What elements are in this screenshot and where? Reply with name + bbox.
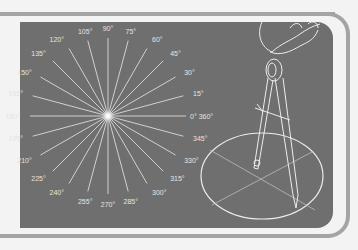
label-45: 45°: [170, 50, 181, 57]
compass-right-leg: [275, 78, 298, 208]
label-225: 225°: [31, 175, 46, 182]
ray-240: [69, 116, 108, 184]
wheel-center-glow: [102, 110, 114, 122]
ray-255: [88, 116, 108, 191]
ray-165: [33, 96, 108, 116]
label-255: 255°: [78, 198, 93, 205]
label-60: 60°: [152, 36, 163, 43]
ray-15: [108, 96, 183, 116]
ray-105: [88, 41, 108, 116]
hand-fingers: [290, 22, 318, 28]
ray-285: [108, 116, 128, 191]
label-150: 150°: [17, 69, 32, 76]
label-315: 315°: [170, 175, 185, 182]
label-180: 180°: [6, 113, 21, 120]
label-165: 165°: [9, 90, 24, 97]
ray-75: [108, 41, 128, 116]
label-330: 330°: [184, 157, 199, 164]
label-210: 210°: [17, 157, 32, 164]
label-240: 240°: [50, 189, 65, 196]
label-30: 30°: [184, 69, 195, 76]
ray-150: [41, 77, 109, 116]
ray-210: [41, 116, 109, 155]
label-0: 0° 360°: [190, 113, 213, 120]
ray-315: [108, 116, 163, 171]
compass-hinge-inner: [268, 63, 276, 77]
label-195: 195°: [9, 135, 24, 142]
ray-60: [108, 49, 147, 117]
label-90: 90°: [103, 25, 114, 32]
label-270: 270°: [101, 201, 116, 208]
compass-adjust-bar: [255, 108, 290, 120]
ray-330: [108, 116, 176, 155]
label-105: 105°: [78, 28, 93, 35]
ray-345: [108, 116, 183, 136]
label-120: 120°: [50, 36, 65, 43]
ray-135: [53, 61, 108, 116]
compass-illustration: [201, 22, 323, 219]
label-345: 345°: [193, 135, 208, 142]
compass-knob: [257, 104, 263, 112]
ray-30: [108, 77, 176, 116]
ray-120: [69, 49, 108, 117]
ray-300: [108, 116, 147, 184]
label-75: 75°: [126, 28, 137, 35]
compass-left-leg: [254, 78, 273, 169]
label-15: 15°: [193, 90, 204, 97]
diagram-canvas: 0° 360°15°30°45°60°75°90°105°120°135°150…: [0, 0, 358, 250]
label-285: 285°: [124, 198, 139, 205]
ray-45: [108, 61, 163, 116]
ray-225: [53, 116, 108, 171]
ray-195: [33, 116, 108, 136]
label-135: 135°: [31, 50, 46, 57]
hand-outline: [260, 22, 320, 54]
label-300: 300°: [152, 189, 167, 196]
